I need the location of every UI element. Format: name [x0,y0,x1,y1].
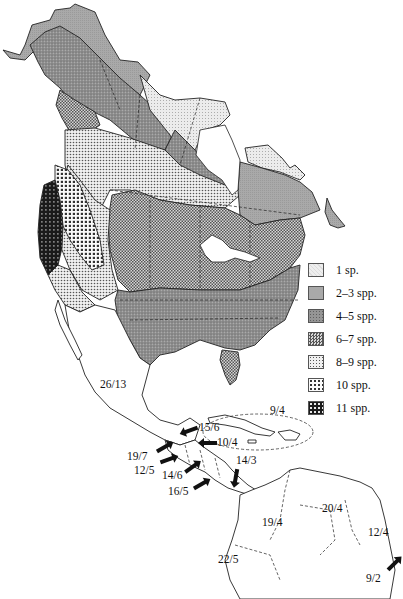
legend-item-5: 8–9 spp. [308,354,377,370]
swatch-10spp [308,378,324,392]
legend-label: 4–5 spp. [336,309,377,324]
label-guyana: 12/4 [368,527,388,539]
legend-label: 6–7 spp. [336,332,377,347]
label-panama: 14/3 [236,455,256,467]
label-venezuela: 20/4 [322,503,342,515]
legend-item-7: 11 spp. [308,400,370,416]
label-nicaragua: 14/6 [162,470,182,482]
legend-label: 1 sp. [336,263,359,278]
swatch-4-5spp [308,309,324,323]
label-costa-rica: 16/5 [168,486,188,498]
swatch-11spp [308,401,324,415]
region-newfoundland [325,198,345,228]
jamaica [248,440,256,443]
legend-label: 11 spp. [336,401,370,416]
swatch-8-9spp [308,355,324,369]
label-mexico: 26/13 [100,379,126,391]
label-belize: 15/6 [199,422,219,434]
label-suriname-coast: 9/2 [366,573,381,585]
legend-item-4: 6–7 spp. [308,331,377,347]
label-honduras-coast: 10/4 [217,437,237,449]
swatch-6-7spp [308,332,324,346]
legend-label: 10 spp. [336,378,371,393]
label-colombia: 19/4 [262,517,282,529]
legend-item-1: 1 sp. [308,262,359,278]
label-el-salvador: 12/5 [134,465,154,477]
swatch-1sp [308,263,324,277]
label-greater-antilles: 9/4 [270,405,285,417]
legend-label: 8–9 spp. [336,355,377,370]
swatch-2-3spp [308,286,324,300]
legend-item-3: 4–5 spp. [308,308,377,324]
hispaniola [278,430,300,440]
legend-item-2: 2–3 spp. [308,285,377,301]
label-guatemala-pacific: 19/7 [127,451,147,463]
arrow-icon [203,441,217,445]
legend-label: 2–3 spp. [336,286,377,301]
region-florida [220,350,240,385]
label-ecuador: 22/5 [218,554,238,566]
legend-item-6: 10 spp. [308,377,371,393]
